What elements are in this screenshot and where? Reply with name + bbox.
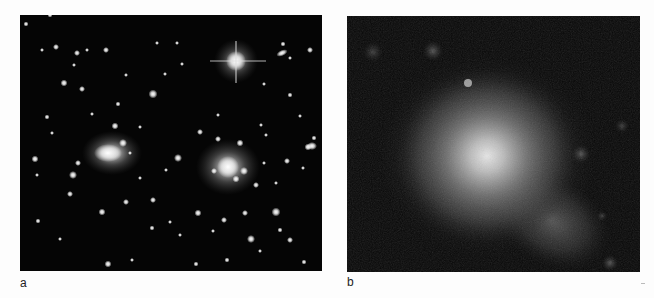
optical-image-panel-a: [20, 15, 322, 271]
panel-label-a: a: [20, 276, 27, 290]
xray-image-panel-b: [347, 16, 640, 272]
panel-label-b: b: [347, 275, 354, 289]
optical-cluster-image: [20, 15, 322, 271]
page-mark: [641, 283, 645, 284]
xray-emission-image: [347, 16, 640, 272]
